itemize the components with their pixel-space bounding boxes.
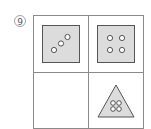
problem-number: 9 xyxy=(15,16,26,27)
cell-2-square-four-dots xyxy=(98,26,135,63)
svg-text:9: 9 xyxy=(17,17,23,27)
cell-1-square-three-dots xyxy=(43,26,80,63)
puzzle-diagram: 9 xyxy=(0,0,151,129)
cell-4-triangle-four-dots xyxy=(98,85,134,117)
